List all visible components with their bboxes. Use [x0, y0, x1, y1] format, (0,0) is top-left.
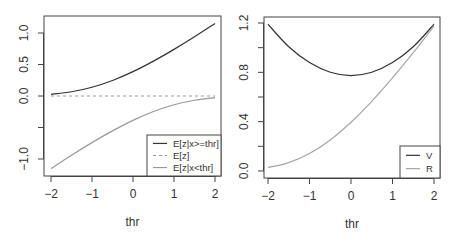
y-axis: −1.00.00.51.0 — [17, 24, 44, 171]
legend-label: E[z] — [173, 150, 189, 161]
x-tick-label: 0 — [130, 187, 137, 201]
legend: VR — [400, 146, 440, 178]
y-tick-label: 0.0 — [17, 87, 31, 104]
y-tick-label: 1.0 — [17, 24, 31, 41]
x-tick-label: −1 — [303, 189, 317, 203]
y-tick-label: 0.5 — [17, 56, 31, 73]
x-tick-label: 2 — [212, 187, 219, 201]
series-line — [268, 24, 434, 75]
x-tick-label: 1 — [171, 187, 178, 201]
series-line — [51, 23, 215, 94]
left-plot-conditional-expectations: −2−1012thr−1.00.00.51.0E[z|x>=thr]E[z]E[… — [17, 16, 221, 229]
y-tick-label: −1.0 — [17, 147, 31, 171]
right-plot-v-and-r: −2−1012thr0.00.40.81.2VR — [237, 14, 440, 231]
legend: E[z|x>=thr]E[z]E[z|x<thr] — [147, 135, 221, 176]
legend-label: E[z|x>=thr] — [173, 138, 219, 149]
x-tick-label: −1 — [85, 187, 99, 201]
x-tick-label: −2 — [44, 187, 58, 201]
x-tick-label: 2 — [431, 189, 438, 203]
x-tick-label: 0 — [348, 189, 355, 203]
x-tick-label: 1 — [389, 189, 396, 203]
legend-label: V — [426, 150, 433, 161]
y-tick-label: 0.0 — [237, 162, 251, 179]
y-axis: 0.00.40.81.2 — [237, 14, 264, 179]
chart-canvas: −2−1012thr−1.00.00.51.0E[z|x>=thr]E[z]E[… — [0, 0, 458, 242]
y-tick-label: 1.2 — [237, 14, 251, 31]
legend-label: E[z|x<thr] — [173, 162, 213, 173]
x-axis: −2−1012thr — [44, 176, 219, 229]
x-axis-label: thr — [125, 215, 139, 229]
x-axis-label: thr — [345, 217, 359, 231]
x-tick-label: −2 — [261, 189, 275, 203]
y-tick-label: 0.8 — [237, 64, 251, 81]
figure: −2−1012thr−1.00.00.51.0E[z|x>=thr]E[z]E[… — [0, 0, 458, 242]
y-tick-label: 0.4 — [237, 113, 251, 130]
x-axis: −2−1012thr — [261, 178, 438, 231]
legend-label: R — [426, 163, 433, 174]
